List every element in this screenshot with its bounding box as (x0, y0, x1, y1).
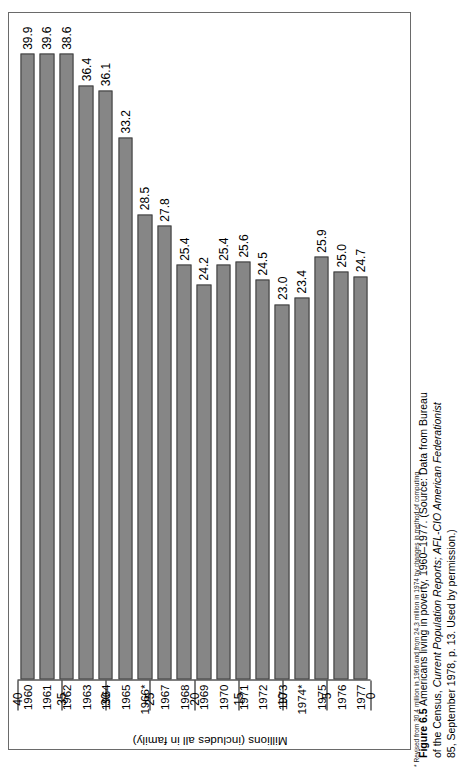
bar-value-label: 33.2 (118, 110, 132, 133)
bar-row[interactable]: 25.4 (216, 26, 231, 679)
bar-row[interactable]: 27.8 (157, 26, 172, 679)
bar-value-label: 36.1 (98, 62, 112, 85)
bar-row[interactable]: 24.2 (196, 26, 211, 679)
figure-caption-container: Figure 6.5 Americans living in poverty, … (416, 392, 456, 762)
bar[interactable] (235, 261, 250, 679)
bar[interactable] (255, 279, 270, 679)
bar-row[interactable]: 25.6 (235, 26, 250, 679)
caption-source-tail: 85, September 1978, p. 13. Used by permi… (445, 529, 457, 758)
value-tick-label: 15 (231, 692, 245, 705)
bar-value-label: 24.5 (255, 252, 269, 275)
bar[interactable] (59, 53, 74, 679)
value-tick-label: 25 (142, 692, 156, 705)
bar-row[interactable]: 25.4 (176, 26, 191, 679)
bar[interactable] (78, 85, 93, 679)
footnote-container: * Revised from 30.4 million in 1966 and … (9, 411, 23, 771)
bar[interactable] (39, 53, 54, 679)
bar[interactable] (118, 137, 133, 679)
bar[interactable] (157, 225, 172, 679)
rotated-chart-container: Millions (includes all in family) 051015… (9, 16, 410, 746)
value-tick-label: 20 (187, 692, 201, 705)
figure-number: Figure 6.5 (417, 708, 429, 758)
bar-value-label: 27.8 (157, 198, 171, 221)
plot-area: 39.939.638.636.436.133.228.527.825.424.2… (17, 26, 370, 680)
value-tick-label: 0 (363, 692, 377, 699)
bar[interactable] (294, 297, 309, 679)
bar-value-label: 25.6 (236, 234, 250, 257)
bar[interactable] (137, 214, 152, 679)
value-tick-label: 35 (54, 692, 68, 705)
value-tick-label: 30 (98, 692, 112, 705)
bar[interactable] (333, 271, 348, 679)
bar-value-label: 25.9 (314, 229, 328, 252)
bar-value-label: 38.6 (59, 26, 73, 49)
caption-source-italic-1: Current Population Reports; (431, 557, 443, 687)
bar[interactable] (353, 276, 368, 679)
bar-value-label: 25.4 (216, 237, 230, 260)
bar-row[interactable]: 25.9 (314, 26, 329, 679)
bar[interactable] (176, 264, 191, 679)
value-axis: 0510152025303540 (17, 680, 370, 710)
figure-frame: Millions (includes all in family) 051015… (8, 12, 411, 750)
bar-value-label: 36.4 (79, 57, 93, 80)
bar-row[interactable]: 36.4 (78, 26, 93, 679)
bar-row[interactable]: 33.2 (118, 26, 133, 679)
bar-value-label: 25.0 (334, 244, 348, 267)
bar-row[interactable]: 28.5 (137, 26, 152, 679)
bar-row[interactable]: 23.4 (294, 26, 309, 679)
bar-value-label: 23.4 (294, 270, 308, 293)
bar-row[interactable]: 24.5 (255, 26, 270, 679)
bar-value-label: 23.0 (275, 276, 289, 299)
bar-value-label: 39.6 (39, 26, 53, 49)
y-axis-title: Millions (includes all in family) (9, 728, 410, 746)
bar[interactable] (98, 90, 113, 679)
bar[interactable] (196, 284, 211, 679)
bar-value-label: 28.5 (137, 186, 151, 209)
bar-value-label: 39.9 (20, 26, 34, 49)
caption-source-italic-2: AFL-CIO American Federationist (431, 402, 443, 554)
bar-row[interactable]: 24.7 (353, 26, 368, 679)
bar-value-label: 24.7 (353, 248, 367, 271)
bar[interactable] (216, 264, 231, 679)
bar[interactable] (314, 256, 329, 679)
bar-row[interactable]: 23.0 (274, 26, 289, 679)
bar-row[interactable]: 36.1 (98, 26, 113, 679)
bar-row[interactable]: 39.6 (39, 26, 54, 679)
bar-value-label: 24.2 (196, 257, 210, 280)
bar-value-label: 25.4 (177, 237, 191, 260)
value-tick-label: 5 (319, 692, 333, 699)
bar[interactable] (274, 304, 289, 679)
bar-row[interactable]: 38.6 (59, 26, 74, 679)
value-tick-label: 10 (275, 692, 289, 705)
figure-caption: Figure 6.5 Americans living in poverty, … (416, 392, 456, 758)
caption-main-text: Americans living in poverty, 1960–1977. (417, 521, 429, 706)
chart-canvas: Millions (includes all in family) 051015… (9, 16, 410, 746)
bar-row[interactable]: 25.0 (333, 26, 348, 679)
